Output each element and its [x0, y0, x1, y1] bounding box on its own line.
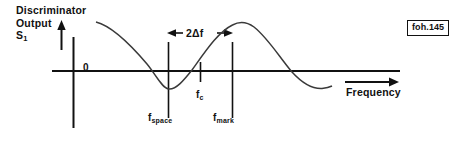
y-axis-title-line1: Discriminator	[16, 4, 86, 17]
y-axis-title: Discriminator Output S1	[16, 4, 86, 46]
y-axis-title-symbol-row: S1	[16, 29, 86, 46]
f-c-subscript: c	[200, 94, 204, 101]
f-space-subscript: space	[152, 117, 173, 124]
x-axis-label: Frequency	[346, 86, 401, 98]
discriminator-output-figure: Discriminator Output S1 0 2Δf Frequency …	[0, 0, 470, 146]
f-space-label: fspace	[148, 112, 172, 124]
f-c-label: fc	[196, 89, 204, 101]
y-axis-title-line2: Output	[16, 17, 86, 30]
f-mark-subscript: mark	[217, 117, 235, 124]
span-label: 2Δf	[186, 27, 203, 39]
discriminator-curve	[96, 22, 332, 89]
f-mark-label: fmark	[213, 112, 234, 124]
origin-zero-label: 0	[83, 62, 89, 73]
y-axis-title-symbol-subscript: 1	[23, 34, 27, 43]
figure-reference-box: foh.145	[407, 20, 449, 36]
